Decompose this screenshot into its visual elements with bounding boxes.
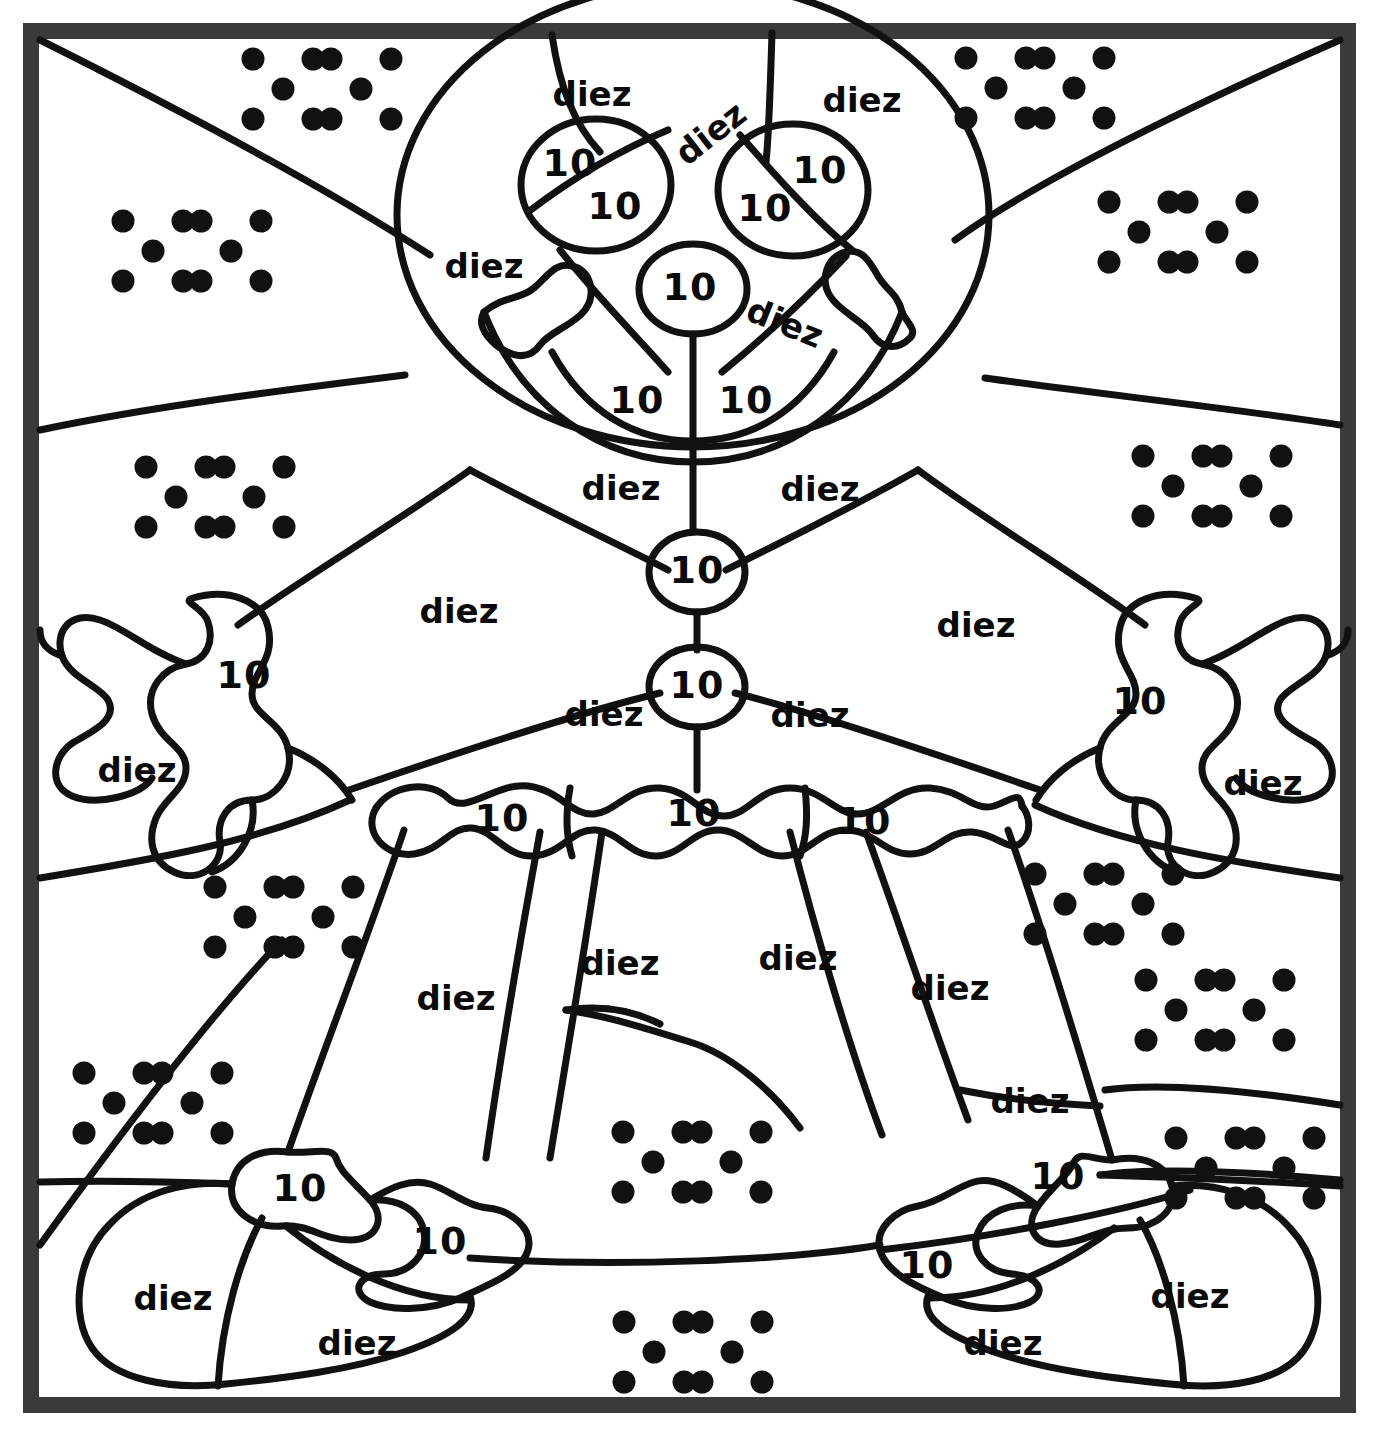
number-label-10: 10 [900,1243,955,1287]
word-label-diez: diez [318,1323,397,1363]
dice-dot [1132,893,1155,916]
dice-dot [243,486,266,509]
dice-dot [613,1311,636,1334]
word-label-diez: diez [417,978,496,1018]
dice-dot-group-five [242,48,325,131]
dice-dot [1243,1187,1266,1210]
dice-dot [1063,77,1086,100]
number-label-10: 10 [1031,1154,1086,1198]
dice-dot-group-five [955,47,1038,130]
number-label-10: 10 [610,378,665,422]
dice-dot [282,876,305,899]
dice-dot [242,108,265,131]
dice-dot [1098,191,1121,214]
dice-dot-cluster-ten [1135,969,1296,1052]
dice-dot [690,1181,713,1204]
word-label-diez: diez [134,1278,213,1318]
right-arm-bone [1036,595,1348,876]
dice-dot-cluster-ten [112,210,273,293]
dice-dot [73,1062,96,1085]
dice-dot [380,48,403,71]
dice-dot-group-five [204,876,287,959]
dice-dot [1162,923,1185,946]
number-label-10: 10 [543,141,598,185]
number-label-10: 10 [738,186,793,230]
dice-dot [204,876,227,899]
dice-dot-group-five [1102,863,1185,946]
dice-dot [1213,969,1236,992]
dice-dot [204,936,227,959]
dice-dot-group-five [1210,445,1293,528]
dice-dot [142,240,165,263]
dice-dot-group-five [151,1062,234,1145]
dice-dot [135,456,158,479]
dice-dot [1132,445,1155,468]
dice-dot [1176,251,1199,274]
dice-dot [135,516,158,539]
dice-dot [955,107,978,130]
word-label-diez: diez [964,1323,1043,1363]
dice-dot [1236,251,1259,274]
dice-dot-group-five [213,456,296,539]
dice-dot [320,108,343,131]
dice-dot [1270,445,1293,468]
dice-dot-group-five [613,1311,696,1394]
dice-dot [112,210,135,233]
dice-dot [190,270,213,293]
number-label-10: 10 [217,653,272,697]
dice-dot-group-five [1033,47,1116,130]
dice-dot [282,936,305,959]
word-label-diez: diez [582,468,661,508]
dice-dot-cluster-ten [955,47,1116,130]
word-label-diez: diez [823,80,902,120]
word-label-diez: diez [98,750,177,790]
number-label-10: 10 [475,796,530,840]
dice-dot [1098,251,1121,274]
dice-dot-group-five [612,1121,695,1204]
dice-dot [1128,221,1151,244]
dice-dot [751,1311,774,1334]
worksheet-artwork: diezdiezdiezdiezdiezdiezdiezdiezdiezdiez… [0,0,1379,1436]
number-label-10: 10 [273,1166,328,1210]
word-label-diez: diez [445,246,524,286]
dice-dot-group-five [1176,191,1259,274]
dice-dot [73,1122,96,1145]
word-label-diez: diez [553,74,632,114]
dice-dot [312,906,335,929]
dice-dot [250,210,273,233]
word-label-diez: diez [565,694,644,734]
dice-dot [643,1341,666,1364]
dice-dot [1240,475,1263,498]
dice-dot [690,1121,713,1144]
dice-dot [211,1122,234,1145]
dice-dot-cluster-ten [73,1062,234,1145]
number-label-10: 10 [663,265,718,309]
dice-dot [151,1062,174,1085]
number-label-10: 10 [793,148,848,192]
dice-dot [242,48,265,71]
number-label-10: 10 [413,1219,468,1263]
dice-dot-group-five [1213,969,1296,1052]
dice-dot-cluster-ten [135,456,296,539]
word-label-diez: diez [911,968,990,1008]
dice-dot [612,1181,635,1204]
dice-dot [181,1092,204,1115]
left-arm-bone [40,595,352,876]
dice-dot [1273,1029,1296,1052]
dice-dot [342,936,365,959]
dice-dot [1093,47,1116,70]
dice-dot [1093,107,1116,130]
dice-dot [272,78,295,101]
dice-dot [1135,1029,1158,1052]
dice-dot-cluster-ten [612,1121,773,1204]
dice-dot [1162,475,1185,498]
word-label-diez: diez [1224,763,1303,803]
dice-dot [1176,191,1199,214]
dice-dot [1270,505,1293,528]
number-label-10: 10 [719,378,774,422]
dice-dot [1165,1127,1188,1150]
dice-dot [213,516,236,539]
dice-dot [1206,221,1229,244]
dice-dot [1243,999,1266,1022]
dice-dot [1236,191,1259,214]
